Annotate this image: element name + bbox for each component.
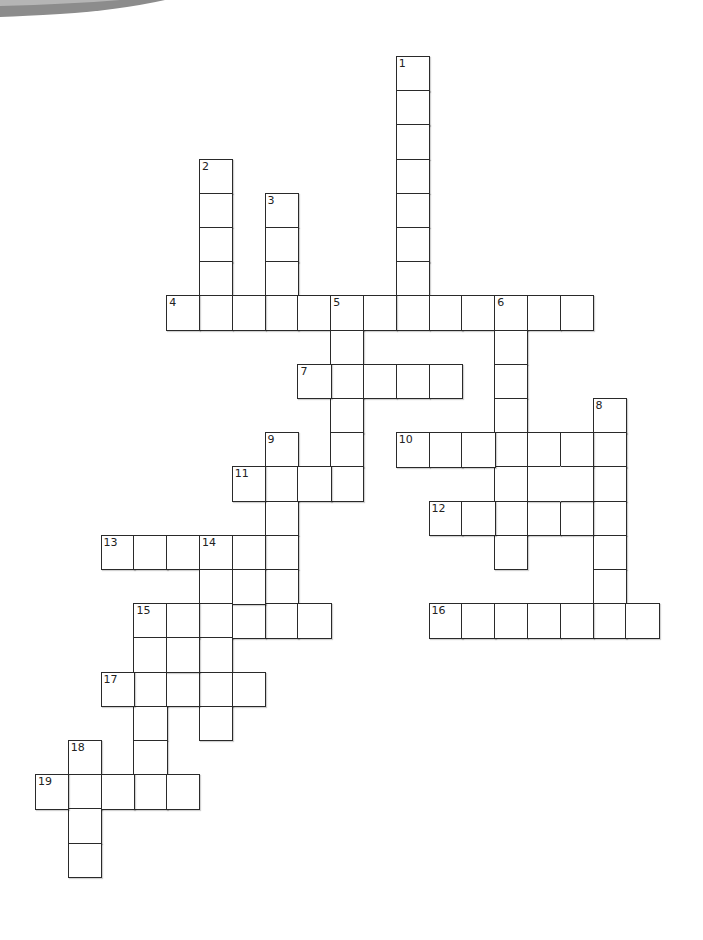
crossword-cell[interactable] [133, 637, 167, 673]
crossword-cell[interactable] [396, 227, 430, 263]
crossword-cell[interactable]: 2 [199, 159, 233, 195]
crossword-cell[interactable] [330, 364, 364, 400]
crossword-cell[interactable] [527, 466, 561, 502]
crossword-cell[interactable]: 16 [429, 603, 463, 639]
crossword-cell[interactable]: 13 [101, 535, 135, 571]
crossword-cell[interactable] [133, 774, 167, 810]
crossword-cell[interactable] [133, 740, 167, 776]
crossword-cell[interactable]: 3 [265, 193, 299, 229]
crossword-cell[interactable] [494, 535, 528, 571]
crossword-cell[interactable] [560, 501, 594, 537]
crossword-cell[interactable] [232, 672, 266, 708]
crossword-cell[interactable] [199, 637, 233, 673]
crossword-cell[interactable]: 14 [199, 535, 233, 571]
crossword-cell[interactable] [330, 466, 364, 502]
crossword-cell[interactable] [166, 603, 200, 639]
crossword-cell[interactable]: 11 [232, 466, 266, 502]
crossword-cell[interactable] [265, 501, 299, 537]
crossword-cell[interactable] [133, 672, 167, 708]
crossword-cell[interactable] [199, 295, 233, 331]
crossword-cell[interactable] [330, 432, 364, 468]
crossword-cell[interactable] [593, 535, 627, 571]
crossword-cell[interactable] [166, 774, 200, 810]
crossword-cell[interactable] [101, 774, 135, 810]
crossword-cell[interactable] [265, 261, 299, 297]
crossword-cell[interactable] [265, 603, 299, 639]
crossword-cell[interactable] [133, 535, 167, 571]
crossword-cell[interactable] [429, 364, 463, 400]
crossword-cell[interactable] [265, 569, 299, 605]
crossword-cell[interactable]: 19 [35, 774, 69, 810]
crossword-cell[interactable]: 5 [330, 295, 364, 331]
crossword-cell[interactable] [494, 398, 528, 434]
crossword-cell[interactable]: 10 [396, 432, 430, 468]
crossword-cell[interactable] [494, 364, 528, 400]
crossword-cell[interactable]: 6 [494, 295, 528, 331]
crossword-cell[interactable] [396, 159, 430, 195]
crossword-cell[interactable] [265, 295, 299, 331]
crossword-cell[interactable] [527, 295, 561, 331]
crossword-cell[interactable] [593, 603, 627, 639]
crossword-cell[interactable] [232, 569, 266, 605]
crossword-cell[interactable] [199, 227, 233, 263]
crossword-cell[interactable]: 8 [593, 398, 627, 434]
crossword-cell[interactable] [593, 569, 627, 605]
crossword-cell[interactable] [330, 330, 364, 366]
crossword-cell[interactable] [593, 432, 627, 468]
crossword-cell[interactable]: 12 [429, 501, 463, 537]
crossword-cell[interactable] [232, 535, 266, 571]
crossword-cell[interactable] [199, 706, 233, 742]
crossword-cell[interactable] [461, 432, 495, 468]
crossword-cell[interactable] [494, 501, 528, 537]
crossword-cell[interactable] [593, 501, 627, 537]
crossword-cell[interactable] [527, 603, 561, 639]
crossword-cell[interactable] [396, 90, 430, 126]
crossword-cell[interactable] [166, 637, 200, 673]
crossword-cell[interactable] [494, 432, 528, 468]
crossword-cell[interactable]: 4 [166, 295, 200, 331]
crossword-cell[interactable] [560, 466, 594, 502]
crossword-cell[interactable] [560, 603, 594, 639]
crossword-cell[interactable] [593, 466, 627, 502]
crossword-cell[interactable]: 15 [133, 603, 167, 639]
crossword-cell[interactable] [396, 124, 430, 160]
crossword-cell[interactable] [461, 603, 495, 639]
crossword-cell[interactable] [363, 364, 397, 400]
crossword-cell[interactable] [199, 603, 233, 639]
crossword-cell[interactable] [297, 295, 331, 331]
crossword-cell[interactable] [68, 808, 102, 844]
crossword-cell[interactable] [199, 261, 233, 297]
crossword-cell[interactable] [166, 535, 200, 571]
crossword-cell[interactable] [133, 706, 167, 742]
crossword-cell[interactable] [297, 466, 331, 502]
crossword-cell[interactable]: 9 [265, 432, 299, 468]
crossword-cell[interactable] [199, 569, 233, 605]
crossword-cell[interactable] [527, 501, 561, 537]
crossword-cell[interactable] [265, 227, 299, 263]
crossword-cell[interactable] [527, 432, 561, 468]
crossword-cell[interactable] [297, 603, 331, 639]
crossword-cell[interactable] [429, 295, 463, 331]
crossword-cell[interactable] [363, 295, 397, 331]
crossword-cell[interactable] [396, 364, 430, 400]
crossword-cell[interactable] [232, 295, 266, 331]
crossword-cell[interactable] [199, 193, 233, 229]
crossword-cell[interactable] [461, 295, 495, 331]
crossword-cell[interactable] [429, 432, 463, 468]
crossword-cell[interactable] [265, 535, 299, 571]
crossword-cell[interactable] [396, 193, 430, 229]
crossword-cell[interactable] [560, 432, 594, 468]
crossword-cell[interactable]: 17 [101, 672, 135, 708]
crossword-cell[interactable] [396, 261, 430, 297]
crossword-cell[interactable]: 18 [68, 740, 102, 776]
crossword-cell[interactable] [166, 672, 200, 708]
crossword-cell[interactable]: 7 [297, 364, 331, 400]
crossword-cell[interactable] [265, 466, 299, 502]
crossword-cell[interactable] [199, 672, 233, 708]
crossword-cell[interactable] [396, 295, 430, 331]
crossword-cell[interactable]: 1 [396, 56, 430, 92]
crossword-cell[interactable] [625, 603, 659, 639]
crossword-cell[interactable] [461, 501, 495, 537]
crossword-cell[interactable] [68, 843, 102, 879]
crossword-cell[interactable] [330, 398, 364, 434]
